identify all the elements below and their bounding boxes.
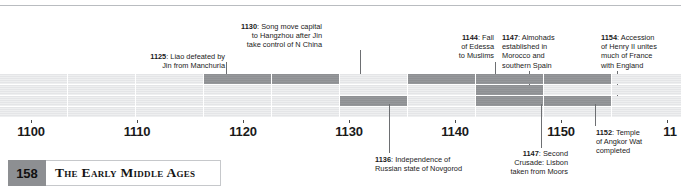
timeline-cell	[272, 96, 339, 106]
timeline-cell	[0, 96, 67, 106]
callout-below-1136: 1136: Independence of Russian state of N…	[375, 155, 495, 173]
page-number: 158	[8, 160, 46, 186]
timeline-cell	[272, 107, 339, 117]
callout-year: 1152	[596, 128, 612, 137]
leader-line-1147-crusade	[541, 104, 542, 148]
callout-year: 1144	[462, 33, 478, 42]
timeline-cell	[204, 85, 271, 95]
timeline-band	[0, 74, 681, 119]
timeline-cell	[544, 107, 611, 117]
axis-tick-label: 1140	[441, 124, 468, 139]
timeline-cell	[204, 107, 271, 117]
timeline-cell	[136, 96, 203, 106]
chapter-title: The Early Middle Ages	[55, 165, 195, 181]
timeline-cell	[68, 85, 135, 95]
timeline-cell-highlight-1147a	[476, 74, 543, 84]
timeline-cell	[612, 107, 681, 117]
timeline-cell	[0, 85, 67, 95]
timeline-cell-highlight-1147-row1	[476, 85, 543, 95]
timeline-cell-highlight-1152	[544, 96, 611, 106]
timeline-row-2	[0, 96, 681, 106]
timeline-cell	[612, 85, 681, 95]
callout-below-1147-crusade: 1147: Second Crusade: Lisbon taken from …	[498, 149, 568, 177]
timeline-cell	[68, 107, 135, 117]
callout-year: 1136	[375, 155, 391, 164]
axis-tick-label: 11	[663, 124, 676, 139]
timeline-cell	[408, 96, 475, 106]
callout-year: 1125	[150, 52, 166, 61]
callout-above-1147-almohads: 1147: Almohads established in Morocco an…	[502, 33, 568, 70]
timeline-cell	[340, 85, 407, 95]
callout-year: 1147	[523, 149, 539, 158]
callout-above-1130: 1130: Song move capital to Hangzhou afte…	[210, 22, 322, 50]
axis-tick-label: 1110	[124, 124, 151, 139]
timeline-cell	[340, 107, 407, 117]
callout-year: 1130	[241, 22, 257, 31]
axis-tick	[349, 120, 350, 123]
timeline-cell-highlight-1130	[272, 74, 339, 84]
callout-above-1125: 1125: Liao defeated by Jin from Manchuri…	[120, 52, 225, 70]
timeline-cell	[204, 96, 271, 106]
timeline-cell-highlight-1154	[544, 74, 611, 84]
timeline-cell	[272, 85, 339, 95]
leader-line-1152	[595, 104, 596, 126]
timeline-cell	[0, 107, 67, 117]
timeline-cell-highlight-1144	[408, 74, 475, 84]
timeline-cell-highlight-1125	[204, 74, 271, 84]
timeline-cell	[476, 107, 543, 117]
timeline-row-0	[0, 74, 681, 84]
axis-tick	[561, 120, 562, 123]
timeline-cell	[68, 74, 135, 84]
axis-tick-label: 1120	[229, 124, 256, 139]
callout-below-1152: 1152: Temple of Angkor Wat completed	[596, 128, 652, 156]
timeline-cell	[136, 107, 203, 117]
callout-year: 1147	[502, 33, 518, 42]
timeline-row-3	[0, 107, 681, 117]
axis-tick	[667, 120, 668, 123]
timeline-cell	[0, 74, 67, 84]
timeline-cell-highlight-1136	[340, 96, 407, 106]
timeline-cell	[68, 96, 135, 106]
timeline-cell	[408, 85, 475, 95]
timeline-page: 1125: Liao defeated by Jin from Manchuri…	[0, 0, 681, 194]
callout-text: Liao defeated by Jin from Manchuria	[162, 52, 225, 70]
timeline-cell	[612, 96, 681, 106]
page-footer: 158 The Early Middle Ages	[8, 160, 221, 186]
chapter-title-box: The Early Middle Ages	[46, 160, 221, 186]
leader-line-1136	[389, 104, 390, 153]
callout-above-1144: 1144: Fall of Edessa to Muslims	[449, 33, 494, 61]
axis-tick-label: 1100	[17, 124, 44, 139]
timeline-cell	[136, 74, 203, 84]
axis-tick	[31, 120, 32, 123]
axis-tick-label: 1130	[335, 124, 362, 139]
callout-year: 1154	[601, 33, 617, 42]
timeline-cell	[612, 74, 681, 84]
timeline-cell	[544, 85, 611, 95]
timeline-cell-highlight-1147-row2	[476, 96, 543, 106]
timeline-cell	[136, 85, 203, 95]
timeline-cell	[340, 74, 407, 84]
timeline-cell	[408, 107, 475, 117]
timeline-row-1	[0, 85, 681, 95]
top-divider	[0, 5, 681, 6]
axis-tick	[137, 120, 138, 123]
axis-tick	[455, 120, 456, 123]
callout-above-1154: 1154: Accession of Henry II unites much …	[601, 33, 673, 70]
axis-tick-label: 1150	[547, 124, 574, 139]
timeline-axis: 1100 1110 1120 1130 1140 1150 11	[0, 120, 681, 142]
axis-tick	[243, 120, 244, 123]
